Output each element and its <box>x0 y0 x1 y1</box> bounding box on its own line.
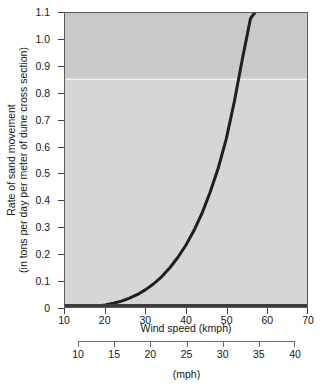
y-axis-tick-label: 0.6 <box>35 141 50 152</box>
y-axis-tick-label: 0.5 <box>35 168 50 179</box>
secondary-x-axis-tick <box>294 341 295 347</box>
y-axis-tick-label: 0.3 <box>35 222 50 233</box>
secondary-x-axis-tick <box>187 341 188 347</box>
y-axis-tick-label: 0.9 <box>35 61 50 72</box>
plot-area <box>64 12 308 308</box>
sand-movement-chart: Rate of sand movement (in tons per day p… <box>0 0 328 391</box>
secondary-x-axis-tick-label: 15 <box>108 349 120 360</box>
secondary-x-axis-tick-label: 20 <box>144 349 156 360</box>
y-axis-tick-label: 0.2 <box>35 249 50 260</box>
secondary-x-axis-tick <box>259 341 260 347</box>
secondary-x-axis: 10152025303540 <box>78 341 295 347</box>
sand-movement-curve <box>65 13 255 307</box>
x-axis-title: Wind speed (kmph) <box>64 322 308 334</box>
axis-baseline <box>65 304 307 307</box>
secondary-x-axis-tick-label: 40 <box>289 349 301 360</box>
secondary-x-axis-tick-label: 25 <box>181 349 193 360</box>
x-axis-ticks: 10203040506070 <box>64 308 308 314</box>
secondary-x-axis-tick <box>223 341 224 347</box>
y-axis-tick-label: 0.8 <box>35 87 50 98</box>
secondary-x-axis-tick <box>114 341 115 347</box>
y-axis-tick-label: 0.4 <box>35 195 50 206</box>
data-curve-svg <box>65 13 307 307</box>
y-axis-tick-label: 1.1 <box>35 7 50 18</box>
secondary-x-axis-tick-label: 10 <box>72 349 84 360</box>
y-axis-tick-label: 0.7 <box>35 114 50 125</box>
y-axis-tick-label: 0.1 <box>35 276 50 287</box>
secondary-x-axis-tick <box>78 341 79 347</box>
y-axis-tick-label: 1.0 <box>35 34 50 45</box>
secondary-x-axis-tick <box>150 341 151 347</box>
y-axis-tick-labels: 00.10.20.30.40.50.60.70.80.91.01.1 <box>0 12 58 308</box>
secondary-x-axis-title: (mph) <box>78 368 295 380</box>
secondary-x-axis-tick-label: 35 <box>253 349 265 360</box>
secondary-x-axis-tick-label: 30 <box>217 349 229 360</box>
y-axis-tick-label: 0 <box>44 303 50 314</box>
